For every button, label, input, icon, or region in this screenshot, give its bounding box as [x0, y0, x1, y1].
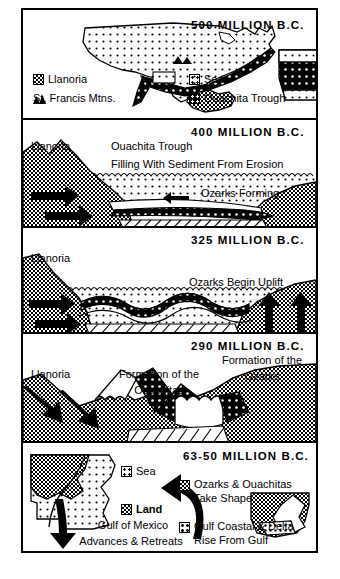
ozarks-label-line1: Formation of the	[209, 354, 315, 367]
ouachita-trough-swatch-icon	[189, 93, 200, 104]
legend-label-ozarks-line1: Ozarks & Ouachitas	[194, 479, 292, 490]
legend-label-ozarks-line2: Take Shape	[194, 493, 292, 504]
panel-325-million-bc: 325 MILLION B.C. Llanoria Ozarks Begin U…	[23, 228, 316, 334]
llanoria-label: Llanoria	[31, 368, 70, 381]
trough-filling-label: Filling With Sediment From Erosion	[111, 158, 283, 171]
figure-frame: 500 MILLION B.C. Llanoria St. Francis Mt…	[21, 8, 318, 553]
gulf-of-mexico-label-line1: Gulf of Mexico	[85, 519, 181, 532]
ouachitas-label-line2: Ouachitas	[105, 384, 213, 397]
legend-item-gulf-coastal: Gulf Coastal & Delta Rise From Gulf	[179, 521, 294, 546]
mountain-triangles-icon	[33, 93, 47, 104]
legend-item-llanoria: Llanoria	[33, 74, 87, 85]
ozarks-swatch-icon	[179, 480, 190, 491]
era-label-63-50: 63-50 MILLION B.C.	[183, 450, 309, 462]
legend-item-st-francis: St. Francis Mtns.	[33, 93, 116, 104]
legend-label-land: Land	[136, 504, 162, 515]
panel-500-million-bc: 500 MILLION B.C. Llanoria St. Francis Mt…	[23, 10, 316, 120]
legend-label-sea: Sea	[136, 466, 156, 477]
ozarks-label-line2: Ozarks	[209, 370, 315, 383]
era-label-290: 290 MILLION B.C.	[191, 340, 304, 352]
legend-item-ouachita-trough: Ouachita Trough	[189, 93, 285, 104]
era-label-400: 400 MILLION B.C.	[191, 126, 304, 138]
legend-item-ozarks-ouachitas: Ozarks & Ouachitas Take Shape	[179, 479, 292, 504]
era-label-325: 325 MILLION B.C.	[191, 234, 304, 246]
legend-label-gulf-line2: Rise From Gulf	[194, 535, 294, 546]
legend-label-gulf-line1: Gulf Coastal & Delta	[194, 521, 294, 532]
basin-white	[175, 396, 223, 428]
panel-63-50-million-bc: 63-50 MILLION B.C. Sea Land Ozarks & Oua…	[23, 443, 316, 551]
sea-swatch-icon	[189, 74, 200, 85]
figure-sheet: 500 MILLION B.C. Llanoria St. Francis Mt…	[0, 0, 340, 579]
panel-400-million-bc: 400 MILLION B.C. Llanoria Ouachita Troug…	[23, 120, 316, 228]
sea-swatch-icon	[121, 466, 132, 477]
llanoria-label: Llanoria	[31, 140, 70, 153]
era-label-500: 500 MILLION B.C.	[191, 19, 304, 31]
legend-item-sea: Sea	[121, 466, 156, 477]
panel-290-million-bc: 290 MILLION B.C. Llanoria Formation of t…	[23, 334, 316, 443]
llanoria-label: Llanoria	[31, 252, 70, 265]
legend-label-llanoria: Llanoria	[48, 74, 87, 85]
ozarks-forming-label: Ozarks Forming	[201, 187, 279, 200]
legend-label-sea: Sea	[204, 74, 224, 85]
ouachita-trough-label: Ouachita Trough	[111, 140, 192, 153]
legend-item-sea: Sea	[189, 74, 224, 85]
llanoria-swatch-icon	[33, 74, 44, 85]
ouachitas-label-line1: Formation of the	[105, 368, 213, 381]
ozarks-uplift-label: Ozarks Begin Uplift	[189, 276, 283, 289]
legend-item-land: Land	[121, 504, 162, 515]
gulf-of-mexico-label-line2: Advances & Retreats	[67, 535, 195, 548]
legend-label-ouachita-trough: Ouachita Trough	[204, 93, 285, 104]
land-swatch-icon	[121, 504, 132, 515]
